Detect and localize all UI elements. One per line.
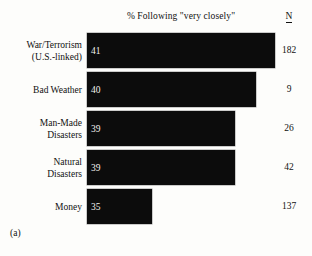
chart-row: Bad Weather409 bbox=[0, 72, 312, 107]
bar: 41 bbox=[87, 33, 275, 68]
chart-row: Man-MadeDisasters3926 bbox=[0, 111, 312, 146]
plot-area: War/Terrorism(U.S.-linked)41182Bad Weath… bbox=[0, 0, 312, 256]
bar: 39 bbox=[87, 111, 235, 146]
n-value: 42 bbox=[272, 150, 306, 185]
category-label-line: Disasters bbox=[47, 129, 82, 141]
category-label-line: Man-Made bbox=[40, 117, 82, 129]
n-value: 26 bbox=[272, 111, 306, 146]
bar: 40 bbox=[87, 72, 256, 107]
bar: 39 bbox=[87, 150, 235, 185]
chart-row: Money35137 bbox=[0, 189, 312, 224]
panel-caption: (a) bbox=[10, 228, 21, 239]
category-label: Bad Weather bbox=[2, 72, 82, 107]
n-value: 9 bbox=[272, 72, 306, 107]
category-label-line: Money bbox=[55, 201, 82, 213]
category-label-line: (U.S.-linked) bbox=[32, 51, 82, 63]
category-label-line: Natural bbox=[54, 156, 83, 168]
category-label-line: Disasters bbox=[47, 168, 82, 180]
n-value: 182 bbox=[272, 33, 306, 68]
bar-value-label: 39 bbox=[91, 123, 101, 134]
chart-row: War/Terrorism(U.S.-linked)41182 bbox=[0, 33, 312, 68]
category-label-line: Bad Weather bbox=[33, 84, 82, 96]
chart-row: NaturalDisasters3942 bbox=[0, 150, 312, 185]
bar-chart-figure: % Following "very closely" N War/Terrori… bbox=[0, 0, 312, 256]
bar-value-label: 41 bbox=[91, 45, 101, 56]
n-value: 137 bbox=[272, 189, 306, 224]
category-label-line: War/Terrorism bbox=[26, 39, 82, 51]
category-label: Money bbox=[2, 189, 82, 224]
bar-value-label: 39 bbox=[91, 162, 101, 173]
bar-value-label: 40 bbox=[91, 84, 101, 95]
bar-value-label: 35 bbox=[91, 201, 101, 212]
category-label: War/Terrorism(U.S.-linked) bbox=[2, 33, 82, 68]
category-label: NaturalDisasters bbox=[2, 150, 82, 185]
bar: 35 bbox=[87, 189, 152, 224]
category-label: Man-MadeDisasters bbox=[2, 111, 82, 146]
